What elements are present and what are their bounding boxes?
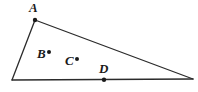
point-dot-A bbox=[33, 18, 37, 22]
edge-A-bottom-right bbox=[35, 20, 193, 79]
point-dot-D bbox=[102, 78, 106, 82]
point-dot-C bbox=[75, 57, 79, 61]
edge-A-bottom-left bbox=[12, 20, 35, 80]
point-label-a: A bbox=[29, 1, 38, 14]
geometry-figure: A B C D bbox=[0, 0, 198, 92]
point-label-b: B bbox=[37, 47, 46, 60]
point-label-d: D bbox=[99, 62, 108, 75]
point-dot-B bbox=[47, 50, 51, 54]
point-label-c: C bbox=[65, 54, 74, 67]
